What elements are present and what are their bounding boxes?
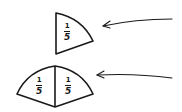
- fraction-label-bottom-right: 1 5: [65, 77, 71, 96]
- denominator: 5: [64, 33, 70, 42]
- fraction-label-bottom-left: 1 5: [36, 77, 42, 96]
- denominator: 5: [65, 87, 71, 96]
- numerator: 1: [66, 77, 71, 84]
- numerator: 1: [37, 77, 42, 84]
- diagram-canvas: [0, 0, 182, 112]
- arrow-bottom: [97, 71, 172, 78]
- arrow-top: [103, 19, 172, 28]
- fraction-label-top: 1 5: [64, 23, 70, 42]
- top-sector-shape: [56, 13, 93, 54]
- bottom-sector-shape: [17, 66, 93, 107]
- denominator: 5: [36, 87, 42, 96]
- numerator: 1: [65, 23, 70, 30]
